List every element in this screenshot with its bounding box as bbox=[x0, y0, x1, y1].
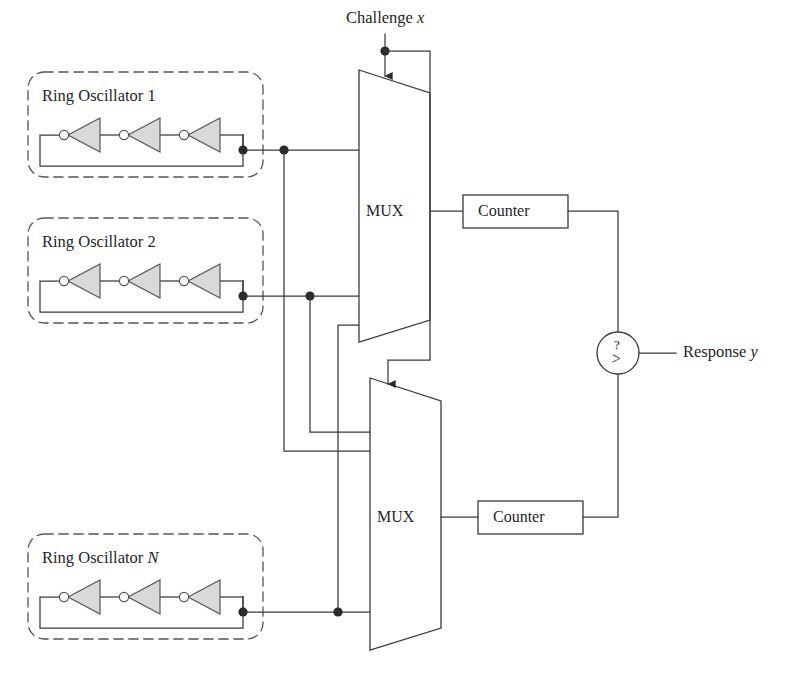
roN-inverter-3 bbox=[188, 580, 220, 614]
ro1-inverter-2 bbox=[128, 118, 160, 152]
ro1-title-index: 1 bbox=[147, 86, 155, 105]
roN-inverter-3-bubble bbox=[179, 592, 188, 601]
response-variable: y bbox=[750, 342, 757, 361]
response-label-text: Response bbox=[683, 342, 746, 361]
roN-inverter-1-bubble bbox=[59, 592, 68, 601]
roN-to-mux1-wire bbox=[338, 325, 359, 612]
ro2-output-dot bbox=[238, 291, 247, 300]
challenge-label-text: Challenge bbox=[346, 8, 413, 27]
ro2-title-prefix: Ring Oscillator bbox=[42, 232, 143, 251]
ro2-title: Ring Oscillator 2 bbox=[42, 234, 156, 251]
counter-top-label: Counter bbox=[478, 203, 530, 219]
comparator-operator: > bbox=[612, 351, 621, 367]
ro1-inverter-1-bubble bbox=[59, 130, 68, 139]
ro1-inverter-3 bbox=[188, 118, 220, 152]
ro1-inverter-3-bubble bbox=[179, 130, 188, 139]
ro2-inverter-2 bbox=[128, 264, 160, 298]
ro2-inverter-1-bubble bbox=[59, 276, 68, 285]
roN-title-index: N bbox=[147, 548, 158, 567]
roN-title-prefix: Ring Oscillator bbox=[42, 548, 143, 567]
ro1-inverter-1 bbox=[68, 118, 100, 152]
ro1-title: Ring Oscillator 1 bbox=[42, 88, 156, 105]
roN-output-dot bbox=[238, 607, 247, 616]
challenge-label: Challenge x bbox=[346, 10, 424, 27]
ro2-inverter-3-bubble bbox=[179, 276, 188, 285]
counter-bottom-to-comparator-wire bbox=[583, 374, 618, 517]
ro2-inverter-2-bubble bbox=[119, 276, 128, 285]
ro2-inverter-3 bbox=[188, 264, 220, 298]
mux-bottom-label: MUX bbox=[377, 509, 414, 525]
roN-inverter-2-bubble bbox=[119, 592, 128, 601]
counter-top-to-comparator-wire bbox=[568, 211, 618, 332]
roN-inverter-1 bbox=[68, 580, 100, 614]
ro1-to-mux2-wire bbox=[284, 150, 370, 451]
response-label: Response y bbox=[683, 344, 758, 361]
ro2-title-index: 2 bbox=[147, 232, 155, 251]
ro1-output-dot bbox=[238, 145, 247, 154]
roN-title: Ring Oscillator N bbox=[42, 550, 158, 567]
challenge-variable: x bbox=[417, 8, 424, 27]
roN-inverter-2 bbox=[128, 580, 160, 614]
counter-bottom-label: Counter bbox=[493, 509, 545, 525]
ro2-inverter-1 bbox=[68, 264, 100, 298]
ro1-title-prefix: Ring Oscillator bbox=[42, 86, 143, 105]
mux-top-label: MUX bbox=[366, 203, 403, 219]
diagram-canvas: Challenge x Response y Ring Oscillator 1… bbox=[0, 0, 789, 678]
ro1-inverter-2-bubble bbox=[119, 130, 128, 139]
